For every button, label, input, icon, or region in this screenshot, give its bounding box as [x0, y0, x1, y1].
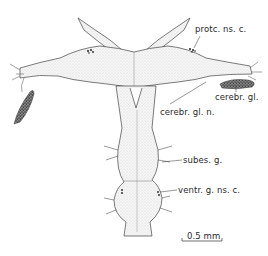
label-ventr-g-ns-c: ventr. g. ns. c. [178, 185, 240, 195]
nervous-system-drawing [0, 0, 268, 256]
label-cerebr-gl: cerebr. gl. [215, 92, 259, 102]
label-subes-g: subes. g. [183, 155, 222, 165]
brain [20, 46, 252, 88]
anatomical-figure: protc. ns. c. cerebr. gl. cerebr. gl. n.… [0, 0, 268, 256]
scale-bar-label: 0.5 mm [187, 231, 220, 241]
cerebral-gland-left [14, 90, 34, 124]
cerebral-gland-right [220, 80, 254, 89]
label-cerebr-gl-n: cerebr. gl. n. [160, 107, 215, 117]
ventral-cord [114, 86, 162, 236]
label-protc-ns-c: protc. ns. c. [195, 24, 246, 34]
